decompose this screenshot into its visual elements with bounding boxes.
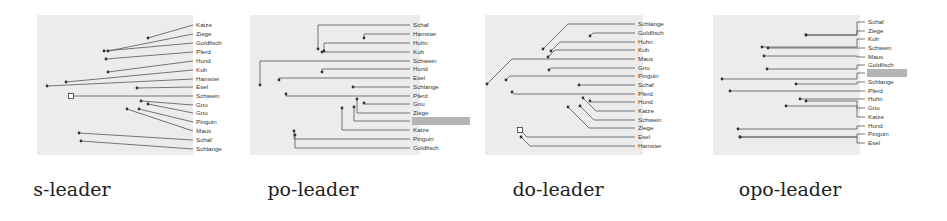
point-marker-icon — [761, 46, 764, 49]
leader-kuh: Kuh — [761, 35, 880, 48]
point-marker-icon — [799, 98, 802, 101]
point-marker-icon — [767, 47, 770, 50]
leader-esel: Esel — [739, 136, 880, 147]
point-marker-icon — [721, 78, 724, 81]
label-text: Goldfisch — [868, 61, 894, 68]
point-marker-icon — [795, 83, 798, 86]
label-text: Esel — [868, 139, 880, 146]
label-text: Pinguin — [868, 130, 889, 137]
label-text: Katze — [868, 113, 884, 120]
leader-hund: Hund — [737, 122, 884, 130]
point-marker-icon — [785, 105, 788, 108]
label-text: Schlange — [868, 78, 894, 85]
caption-s-leader: s-leader — [33, 178, 110, 200]
point-marker-icon — [763, 55, 766, 58]
leader-maus: Maus — [763, 53, 884, 60]
label-text: Schwein — [868, 44, 892, 51]
label-text: Hund — [868, 122, 883, 129]
label-text: Gnu — [868, 104, 880, 111]
caption-opo-leader: opo-leader — [739, 178, 842, 200]
point-marker-icon — [739, 136, 742, 139]
point-marker-icon — [737, 128, 740, 131]
leader-pferd: Pferd — [729, 87, 884, 94]
label-text: Maus — [868, 53, 883, 60]
point-marker-icon — [805, 34, 808, 37]
point-marker-icon — [766, 68, 769, 71]
label-text: Huhn — [868, 95, 883, 102]
leader-schwein: Schwein — [767, 44, 892, 51]
point-marker-icon — [729, 90, 732, 93]
label-text: Pferd — [868, 87, 883, 94]
highlighted-label-bar — [867, 69, 907, 77]
caption-po-leader: po-leader — [267, 178, 358, 200]
label-text: Ziege — [868, 27, 884, 34]
caption-do-leader: do-leader — [512, 178, 603, 200]
label-text: Kuh — [868, 35, 880, 42]
point-marker-icon — [805, 100, 808, 103]
label-text: Schaf — [868, 18, 884, 25]
